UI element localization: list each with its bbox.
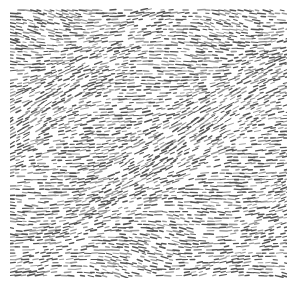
dash-texture-image <box>10 8 287 278</box>
